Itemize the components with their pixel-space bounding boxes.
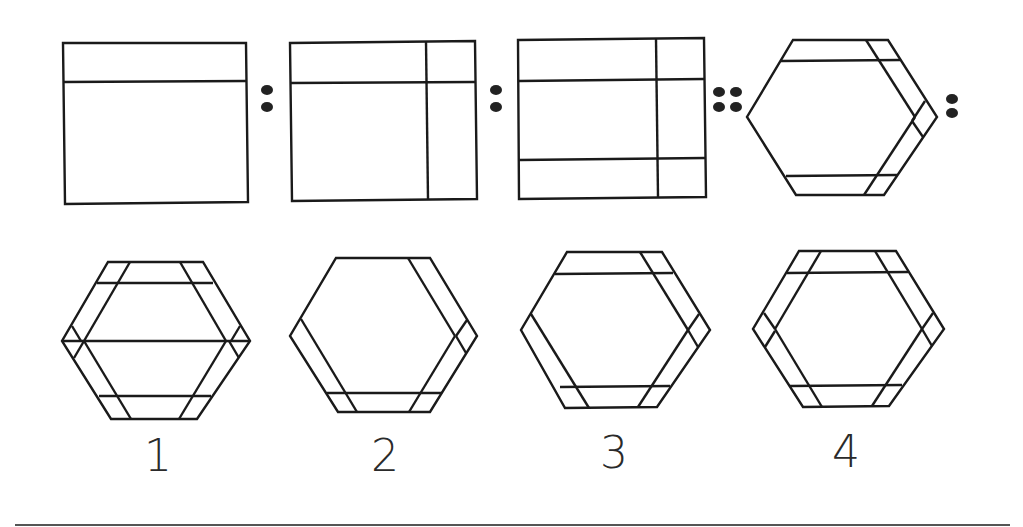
option-2-hexagon[interactable] <box>290 258 477 412</box>
figure-c-rectangle <box>518 38 706 199</box>
option-4-label: 4 <box>816 430 876 474</box>
option-1-label: 1 <box>128 434 188 478</box>
ratio-colon-1 <box>261 85 273 112</box>
bottom-rule <box>15 524 1010 526</box>
figure-a-rectangle <box>63 43 248 204</box>
figure-b-rectangle <box>290 41 477 201</box>
figure-d-hexagon <box>747 40 937 195</box>
option-2-label: 2 <box>355 434 415 478</box>
option-4-hexagon[interactable] <box>753 251 944 407</box>
ratio-colon-2 <box>490 85 502 112</box>
ratio-colon-3 <box>946 94 958 118</box>
proportion-double-colon <box>713 87 742 112</box>
option-1-hexagon[interactable] <box>62 262 250 419</box>
option-3-label: 3 <box>584 431 644 475</box>
option-3-hexagon[interactable] <box>521 252 710 408</box>
